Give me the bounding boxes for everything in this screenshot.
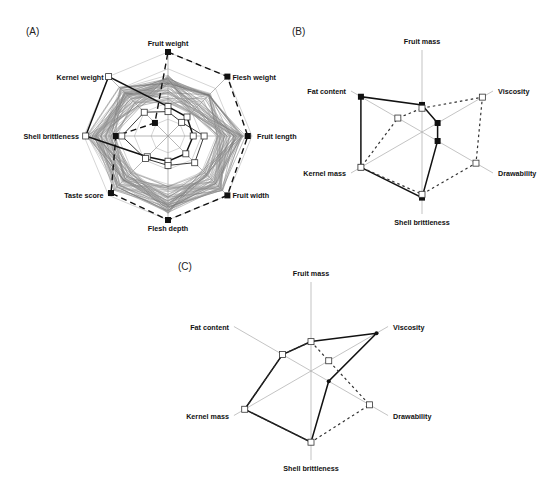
filled-square-marker <box>245 133 251 139</box>
open-square-marker <box>165 162 171 168</box>
axis-label: Viscosity <box>498 87 529 96</box>
axis-label: Drawability <box>393 412 431 421</box>
panel-label: (C) <box>178 261 192 272</box>
axis-line <box>311 371 388 416</box>
axis-label: Viscosity <box>393 323 424 332</box>
radar-chart-c: (C)Fruit massViscosityDrawabilityShell b… <box>178 261 431 473</box>
open-square-marker <box>419 105 425 111</box>
open-square-marker <box>419 191 425 197</box>
open-square-marker <box>142 156 148 162</box>
open-square-marker <box>308 339 314 345</box>
filled-square-marker <box>358 94 364 100</box>
open-square-marker <box>201 133 207 139</box>
filled-square-marker <box>224 192 230 198</box>
figure-canvas: (A)Fruit weightFlesh weightFruit lengthF… <box>0 0 557 493</box>
open-square-marker <box>141 109 147 115</box>
open-square-marker <box>279 352 285 358</box>
axis-label: Fat content <box>307 87 346 96</box>
filled-square-marker <box>435 120 441 126</box>
open-square-marker <box>395 115 401 121</box>
axis-label: Flesh weight <box>232 73 276 82</box>
series-line <box>245 342 370 443</box>
dot-marker <box>327 379 331 383</box>
open-square-marker <box>473 160 479 166</box>
axis-label: Fruit mass <box>293 269 329 278</box>
filled-square-marker <box>224 74 230 80</box>
open-square-marker <box>358 164 364 170</box>
axis-label: Fruit length <box>257 132 297 141</box>
filled-square-marker <box>435 138 441 144</box>
axis-label: Shell brittleness <box>283 464 339 473</box>
axis-label: Fat content <box>190 323 229 332</box>
open-square-marker <box>192 160 198 166</box>
open-square-marker <box>242 406 248 412</box>
radar-chart-a: (A)Fruit weightFlesh weightFruit lengthF… <box>23 26 296 233</box>
axis-line <box>234 327 311 372</box>
series-line <box>361 97 438 198</box>
open-square-marker <box>326 358 332 364</box>
filled-square-marker <box>113 133 119 139</box>
open-square-marker <box>179 119 185 125</box>
open-square-marker <box>106 74 112 80</box>
axis-label: Drawability <box>498 169 536 178</box>
panel-label: (B) <box>292 26 305 37</box>
open-square-marker <box>83 133 89 139</box>
filled-square-marker <box>152 120 158 126</box>
dot-marker <box>375 331 379 335</box>
open-square-marker <box>367 402 373 408</box>
axis-label: Fruit weight <box>148 39 189 48</box>
open-square-marker <box>479 94 485 100</box>
panel-label: (A) <box>26 26 39 37</box>
axis-label: Kernel mass <box>303 169 346 178</box>
open-square-marker <box>165 109 171 115</box>
axis-label: Fruit width <box>232 191 269 200</box>
series-line <box>245 333 377 442</box>
filled-square-marker <box>108 190 114 196</box>
open-square-marker <box>183 151 189 157</box>
figure-caption-fragment <box>4 484 553 493</box>
axis-label: Fruit mass <box>404 37 440 46</box>
open-square-marker <box>308 439 314 445</box>
axis-label: Flesh depth <box>148 224 188 233</box>
axis-label: Shell brittleness <box>23 132 79 141</box>
open-square-marker <box>190 133 196 139</box>
axis-label: Shell brittleness <box>394 218 450 227</box>
radar-chart-b: (B)Fruit massViscosityDrawabilityShell b… <box>292 26 536 227</box>
filled-square-marker <box>165 49 171 55</box>
axis-label: Kernel weight <box>56 73 104 82</box>
filled-square-marker <box>165 217 171 223</box>
axis-label: Taste score <box>64 191 103 200</box>
axis-line <box>422 132 493 173</box>
axis-label: Kernel mass <box>186 412 229 421</box>
open-square-marker <box>119 133 125 139</box>
